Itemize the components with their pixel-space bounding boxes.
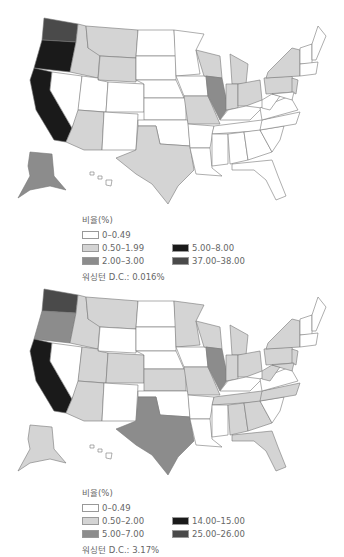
state-ar [188, 124, 214, 148]
state-fl [232, 160, 286, 200]
state-nm [102, 383, 138, 421]
state-hi [90, 172, 112, 186]
state-me [312, 26, 326, 60]
state-ks [144, 98, 186, 120]
legend-item: 0.50–1.99 [82, 243, 172, 253]
state-hi [90, 445, 112, 459]
dc-note: 워싱턴 D.C.: 3.17% [82, 543, 262, 555]
legend-item: 25.00–26.00 [172, 529, 262, 539]
state-in [226, 355, 238, 381]
legend-swatch [82, 530, 99, 538]
state-sd [136, 56, 176, 80]
state-vt-nh [300, 44, 312, 64]
legend-item: 37.00–38.00 [172, 256, 262, 266]
legend-2: 비율(%) 0–0.49 0.50–2.00 14.00–15.00 5.00–… [82, 486, 262, 555]
legend-item: 0–0.49 [82, 230, 172, 240]
state-fl [232, 431, 286, 471]
legend-swatch [82, 244, 99, 252]
state-ny [266, 48, 300, 78]
state-ar [188, 395, 214, 419]
state-me [312, 297, 326, 331]
state-co [106, 353, 144, 383]
us-map-1 [0, 0, 344, 210]
legend-title: 비율(%) [82, 213, 262, 225]
state-oh [238, 80, 262, 106]
legend-item: 0.50–2.00 [82, 516, 172, 526]
legend-item: 5.00–8.00 [172, 243, 262, 253]
state-nd [136, 30, 176, 56]
legend-item: 5.00–7.00 [82, 529, 172, 539]
legend-swatch [82, 504, 99, 512]
state-ma-ct-ri [300, 62, 318, 76]
us-map-2 [0, 285, 344, 485]
legend-item: 0–0.49 [82, 503, 172, 513]
state-wy [98, 56, 136, 82]
legend-swatch [172, 517, 189, 525]
state-or [34, 311, 76, 343]
state-pa [264, 347, 294, 365]
state-vt-nh [300, 315, 312, 335]
legend-swatch [172, 530, 189, 538]
legend-item: 2.00–3.00 [82, 256, 172, 266]
state-nj [292, 349, 298, 365]
state-nj [292, 78, 298, 94]
state-oh [238, 351, 262, 377]
state-ms [212, 405, 228, 437]
legend-swatch [82, 231, 99, 239]
state-wa [42, 289, 78, 313]
state-or [34, 40, 76, 72]
state-ut [78, 347, 108, 383]
state-wy [98, 327, 136, 353]
state-pa [264, 76, 294, 94]
state-ms [212, 134, 228, 166]
state-ak [18, 152, 66, 198]
state-ma-ct-ri [300, 333, 318, 347]
state-in [226, 84, 238, 110]
legend-title: 비율(%) [82, 486, 262, 498]
state-mi [230, 54, 248, 84]
state-ak [18, 425, 66, 471]
legend-swatch [82, 517, 99, 525]
state-mi [230, 325, 248, 355]
state-ks [144, 369, 186, 391]
state-nm [102, 112, 138, 150]
state-sd [136, 327, 176, 351]
state-ny [266, 319, 300, 349]
legend-swatch [172, 244, 189, 252]
legend-1: 비율(%) 0–0.49 0.50–1.99 5.00–8.00 2.00–3.… [82, 213, 262, 282]
legend-swatch [82, 257, 99, 265]
state-wa [42, 18, 78, 42]
legend-swatch [172, 257, 189, 265]
state-ut [78, 76, 108, 112]
state-co [106, 82, 144, 112]
state-nd [136, 301, 176, 327]
legend-item: 14.00–15.00 [172, 516, 262, 526]
dc-note: 워싱턴 D.C.: 0.016% [82, 270, 262, 282]
